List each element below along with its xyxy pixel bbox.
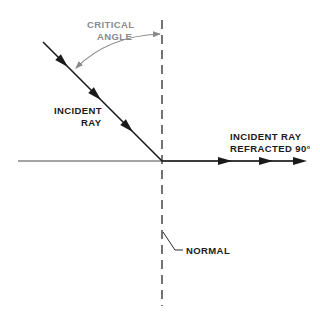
- diagram-canvas: [0, 0, 320, 317]
- normal-label-text: NORMAL: [186, 245, 230, 256]
- critical-angle-label: CRITICAL ANGLE: [87, 19, 147, 43]
- critical-angle-label-line1: CRITICAL: [87, 19, 147, 31]
- refracted-arrow-1-icon: [218, 157, 232, 165]
- refracted-arrow-2-icon: [259, 157, 273, 165]
- refracted-ray-label-line1: INCIDENT RAY: [230, 131, 311, 143]
- normal-leader-line: [163, 232, 183, 250]
- incident-ray-label: INCIDENT RAY: [54, 105, 102, 129]
- refraction-diagram: CRITICAL ANGLE INCIDENT RAY INCIDENT RAY…: [0, 0, 320, 317]
- refracted-arrow-3-icon: [293, 157, 307, 165]
- refracted-ray-label: INCIDENT RAY REFRACTED 90°: [230, 131, 311, 155]
- incident-ray-label-line2: RAY: [54, 117, 102, 129]
- critical-angle-label-line2: ANGLE: [87, 31, 147, 43]
- refracted-ray-label-line2: REFRACTED 90°: [230, 143, 311, 155]
- incident-ray-label-line1: INCIDENT: [54, 105, 102, 117]
- normal-label: NORMAL: [186, 245, 230, 257]
